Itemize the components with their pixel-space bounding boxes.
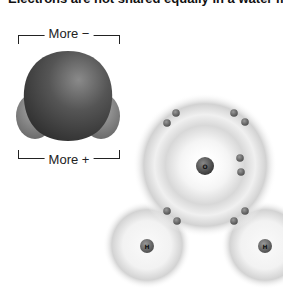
hydrogen-left-symbol: H xyxy=(144,243,149,250)
oxygen-symbol: O xyxy=(202,163,207,170)
more-positive-label: More + xyxy=(45,152,94,167)
electron xyxy=(163,119,171,127)
electron xyxy=(230,109,238,117)
electron xyxy=(230,217,238,225)
electron xyxy=(163,207,171,215)
oxygen-sphere xyxy=(24,51,112,141)
electron xyxy=(173,217,181,225)
more-positive-bracket: More + xyxy=(18,150,120,159)
space-filling-water-model xyxy=(16,51,120,141)
electron xyxy=(241,207,249,215)
electron-shell-model: O H H xyxy=(103,93,283,289)
electron xyxy=(236,154,244,162)
hydrogen-right-symbol: H xyxy=(262,243,267,250)
electron xyxy=(241,118,249,126)
electron xyxy=(172,109,180,117)
electron xyxy=(237,168,245,176)
